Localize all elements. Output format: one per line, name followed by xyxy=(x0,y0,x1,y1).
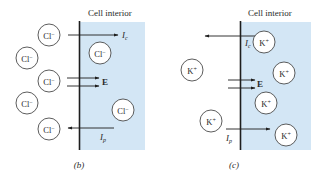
field-label: E xyxy=(102,77,108,87)
chloride-ion-interior: Cl− xyxy=(112,99,134,121)
panel-caption-c: (c) xyxy=(229,160,239,170)
current-ip-label: Ip xyxy=(225,133,232,144)
potassium-ion-interior: K+ xyxy=(275,124,297,146)
chloride-ion: Cl− xyxy=(38,70,60,92)
panel-b: Cell interior Ic E Ip Cl− Cl− Cl− Cl− xyxy=(16,8,145,170)
chloride-ion: Cl− xyxy=(16,92,38,114)
chloride-ion: Cl− xyxy=(38,118,60,140)
membrane-ion-diagram: Cell interior Ic E Ip Cl− Cl− Cl− Cl− xyxy=(0,0,324,181)
potassium-ion-interior: K+ xyxy=(253,31,275,53)
potassium-ion-interior: K+ xyxy=(273,62,295,84)
potassium-ion-interior: K+ xyxy=(255,92,277,114)
chloride-ion: Cl− xyxy=(38,24,60,46)
panel-c: Cell interior Ic E Ip K+ K+ K+ K+ xyxy=(181,8,311,170)
field-label: E xyxy=(257,79,263,89)
cell-interior-label: Cell interior xyxy=(88,8,132,18)
potassium-ion: K+ xyxy=(181,59,203,81)
cell-interior-label: Cell interior xyxy=(248,8,292,18)
panel-caption-b: (b) xyxy=(74,160,85,170)
chloride-ion-interior: Cl− xyxy=(89,42,111,64)
potassium-ion: K+ xyxy=(200,110,222,132)
chloride-ion: Cl− xyxy=(16,47,38,69)
